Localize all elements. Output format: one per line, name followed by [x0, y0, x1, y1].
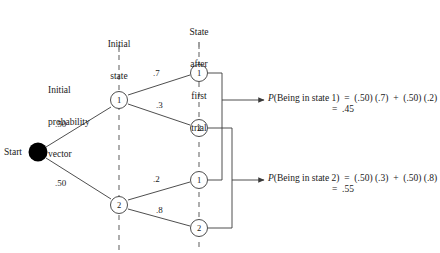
equation-p-state-2: P(Being in state 2) = (.50) (.3) + (.50)…	[268, 173, 437, 183]
node-start	[29, 143, 48, 162]
column-header-first-trial-line-2: after	[169, 59, 229, 70]
equation-p-state-2-line-2: = .55	[332, 184, 354, 194]
column-header-first-trial-line-1: State	[169, 27, 229, 38]
column-header-first-trial-line-4: trial	[169, 123, 229, 134]
edge-label-state1-to-2: .3	[156, 100, 163, 110]
column-header-initial-state-line-1: Initial	[89, 39, 149, 50]
label-start: Start	[4, 147, 22, 158]
initial-probability-vector-line-3: vector	[48, 149, 122, 160]
equation-p-state-1-line-2: = .45	[332, 104, 354, 114]
edge-label-state2-to-2: .8	[156, 205, 163, 215]
edge-label-state2-to-1: .2	[153, 174, 160, 184]
edge-label-start-to-state1: .50	[55, 119, 66, 129]
equation-p-state-1-line-1: (Being in state 1) = (.50) (.7) + (.50) …	[274, 93, 437, 103]
edge-label-start-to-state2: .50	[55, 178, 66, 188]
node-label-initial-state-2: 2	[110, 196, 128, 214]
equation-p-state-1: P(Being in state 1) = (.50) (.7) + (.50)…	[268, 93, 437, 103]
column-header-first-trial-line-3: first	[169, 91, 229, 102]
node-label-trial-2-bottom: 2	[190, 219, 208, 237]
equation-p-state-2-line-1: (Being in state 2) = (.50) (.3) + (.50) …	[274, 173, 437, 183]
edge-state2-to-trial1	[128, 182, 190, 200]
markov-chain-tree-diagram: 1 2 1 2 1 2 Initial state State after fi…	[0, 0, 440, 253]
initial-probability-vector-line-1: Initial	[48, 85, 122, 96]
node-label-trial-1-bottom: 1	[190, 171, 208, 189]
edge-label-state1-to-1: .7	[153, 68, 160, 78]
column-header-state-after-first-trial: State after first trial	[169, 6, 229, 155]
